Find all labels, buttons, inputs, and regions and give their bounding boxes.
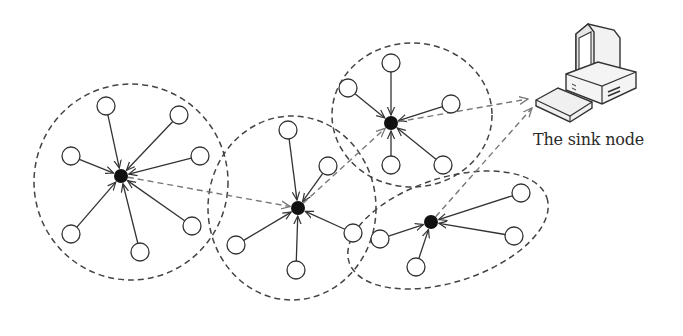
sensor-node xyxy=(371,230,389,248)
member-to-head-arrow xyxy=(355,94,385,118)
sensor-node xyxy=(344,224,362,242)
cluster-head-node xyxy=(424,215,438,229)
sink-node-label: The sink node xyxy=(533,130,644,149)
sensor-node xyxy=(227,236,245,254)
member-to-head-arrow xyxy=(108,115,119,168)
sensor-node xyxy=(191,147,209,165)
sensor-node xyxy=(170,106,188,124)
member-to-head-arrow xyxy=(397,128,436,159)
member-to-head-arrow xyxy=(79,159,113,173)
cluster-head-node xyxy=(114,169,128,183)
sensor-node xyxy=(279,121,297,139)
member-to-head-arrow xyxy=(77,182,116,227)
route-arrow xyxy=(398,99,528,122)
member-to-head-arrow xyxy=(123,184,138,244)
sensor-node xyxy=(434,156,452,174)
member-to-head-arrow xyxy=(127,122,173,171)
sensor-node xyxy=(382,156,400,174)
sensor-node xyxy=(62,225,80,243)
member-to-head-arrow xyxy=(244,212,291,240)
member-to-head-arrow xyxy=(305,211,345,229)
sensor-node xyxy=(442,95,460,113)
sensor-node xyxy=(512,184,530,202)
sensor-node xyxy=(131,243,149,261)
member-to-head-arrow xyxy=(419,230,429,259)
member-to-head-arrow xyxy=(439,223,505,234)
sensor-node xyxy=(62,147,80,165)
sensor-node xyxy=(183,217,201,235)
sensor-node xyxy=(339,79,357,97)
sensor-node xyxy=(407,258,425,276)
member-to-head-arrow xyxy=(289,139,297,200)
sensor-node xyxy=(97,97,115,115)
sensor-node xyxy=(505,227,523,245)
sensor-node xyxy=(287,261,305,279)
desktop-computer-icon xyxy=(536,24,636,122)
member-to-head-arrow xyxy=(128,181,185,221)
route-arrow xyxy=(128,177,290,206)
sensor-node xyxy=(382,54,400,72)
cluster-boundary xyxy=(332,43,492,187)
cluster-head-node xyxy=(384,116,398,130)
route-arrow xyxy=(303,128,385,203)
member-to-head-arrow xyxy=(129,158,192,174)
member-to-head-arrow xyxy=(439,196,513,220)
member-to-head-arrow xyxy=(389,225,424,237)
network-diagram: The sink node xyxy=(0,0,683,336)
sensor-node xyxy=(319,157,337,175)
diagram-canvas xyxy=(0,0,683,336)
sensor-nodes xyxy=(62,54,530,279)
cluster-head-node xyxy=(291,201,305,215)
member-to-head-arrow xyxy=(296,216,297,261)
